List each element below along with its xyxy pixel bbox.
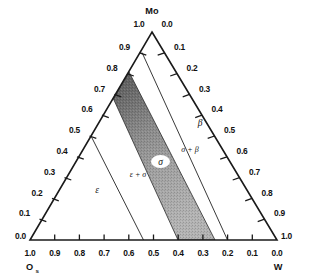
left-axis-label-0.8: 0.8 [106, 63, 118, 73]
bottom-axis-label-0.1: 0.1 [247, 248, 259, 258]
corner-element-labels: O s W [26, 262, 283, 274]
phase-label-sigma: σ [158, 157, 163, 167]
bottom-axis-label-0.9: 0.9 [49, 248, 61, 258]
left-axis-label-0.6: 0.6 [81, 104, 93, 114]
corner-element-label-w: W [274, 262, 283, 272]
right-axis-label-0.2: 0.2 [187, 63, 199, 73]
bottom-axis-label-0.4: 0.4 [173, 248, 185, 258]
right-axis-label-0.9: 0.9 [274, 208, 286, 218]
bottom-axis-label-1.0: 1.0 [24, 248, 36, 258]
right-tick-0.2 [170, 74, 177, 76]
right-axis-label-0.8: 0.8 [262, 188, 274, 198]
right-tick-0.8 [245, 198, 252, 200]
corner-element-label-os-main: O [26, 262, 33, 272]
boundary-epsilon [91, 136, 144, 240]
right-tick-0.1 [158, 53, 165, 55]
bottom-axis-tick-labels: 1.0 0.9 0.8 0.7 0.6 0.5 0.4 0.3 0.2 0.1 … [24, 248, 283, 258]
right-axis-label-0.3: 0.3 [199, 84, 211, 94]
left-axis-label-0.1: 0.1 [19, 208, 31, 218]
right-tick-0.5 [208, 136, 215, 138]
right-axis-label-0.0: 0.0 [161, 19, 173, 29]
bottom-axis-ticks [55, 235, 253, 241]
phase-label-epsilon-plus-sigma: ε + σ [130, 170, 148, 179]
left-axis-tick-labels: 0.9 0.8 0.7 0.6 0.5 0.4 0.3 0.2 0.1 0.0 [15, 42, 131, 241]
right-axis-label-1.0: 1.0 [281, 231, 293, 241]
bottom-axis-label-0.5: 0.5 [148, 248, 160, 258]
left-axis-label-1.0: 1.0 [133, 19, 145, 29]
bottom-axis-label-0.6: 0.6 [123, 248, 135, 258]
right-tick-0.7 [233, 178, 240, 180]
left-axis-label-0.4: 0.4 [56, 146, 68, 156]
left-axis-label-0.2: 0.2 [31, 188, 43, 198]
bottom-axis-label-0.8: 0.8 [74, 248, 86, 258]
left-axis-label-0.5: 0.5 [69, 125, 81, 135]
bottom-axis-label-0.3: 0.3 [197, 248, 209, 258]
left-axis-label-0.0: 0.0 [15, 231, 27, 241]
right-tick-0.6 [220, 157, 227, 159]
left-axis-label-0.9: 0.9 [119, 42, 131, 52]
diagram-canvas: Mo 1.0 0.0 0.9 0.8 0.7 0.6 0.5 0.4 0.3 0… [0, 0, 309, 276]
left-axis-label-0.3: 0.3 [44, 167, 56, 177]
right-tick-0.3 [183, 94, 190, 96]
left-axis-label-0.7: 0.7 [94, 84, 106, 94]
phase-label-beta: β [197, 118, 203, 128]
phase-label-epsilon: ε [95, 185, 99, 195]
right-axis-label-0.1: 0.1 [174, 42, 186, 52]
bottom-axis-label-0.2: 0.2 [222, 248, 234, 258]
apex-element-label-mo: Mo [145, 6, 159, 16]
ternary-phase-diagram: Mo 1.0 0.0 0.9 0.8 0.7 0.6 0.5 0.4 0.3 0… [0, 0, 309, 276]
right-axis-label-0.5: 0.5 [224, 125, 236, 135]
right-tick-0.9 [258, 219, 265, 221]
phase-label-sigma-plus-beta: σ + β [181, 145, 198, 154]
bottom-axis-label-0.7: 0.7 [99, 248, 111, 258]
right-axis-label-0.4: 0.4 [212, 104, 224, 114]
bottom-axis-label-0.0: 0.0 [271, 248, 283, 258]
right-axis-label-0.6: 0.6 [237, 146, 249, 156]
right-axis-label-0.7: 0.7 [249, 167, 261, 177]
corner-element-label-os-sub: s [36, 267, 40, 274]
